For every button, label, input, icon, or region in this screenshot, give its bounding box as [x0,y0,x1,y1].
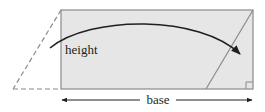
dashed-triangle [13,10,61,89]
base-label: base [146,92,169,107]
parallelogram-diagram: height base [0,0,265,112]
height-label: height [65,42,98,57]
